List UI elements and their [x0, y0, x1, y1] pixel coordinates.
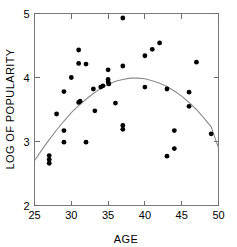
data-point [47, 161, 52, 166]
data-point [187, 104, 192, 109]
x-tick-label: 45 [176, 209, 188, 221]
data-point [106, 67, 111, 72]
data-point [62, 140, 67, 145]
x-tick-label: 50 [212, 209, 224, 221]
data-point [150, 47, 155, 52]
x-tick-label: 40 [139, 209, 151, 221]
data-point [101, 83, 106, 88]
scatter-plot-figure: 2530354045502345 AGE LOG OF POPULARITY [0, 0, 237, 247]
data-point [165, 154, 170, 159]
x-tick-label: 25 [28, 209, 40, 221]
data-point [84, 140, 89, 145]
y-tick-label: 2 [23, 200, 29, 212]
data-point [62, 89, 67, 94]
data-point [84, 62, 89, 67]
data-point [76, 61, 81, 66]
tick-labels: 2530354045502345 [23, 8, 224, 221]
data-point [120, 127, 125, 132]
data-point [62, 128, 67, 133]
data-point [76, 48, 81, 53]
y-tick-label: 5 [23, 8, 29, 20]
data-point [120, 64, 125, 69]
axis-frame [35, 14, 219, 206]
plot-canvas: 2530354045502345 AGE LOG OF POPULARITY [0, 0, 237, 247]
y-axis-title: LOG OF POPULARITY [4, 48, 16, 169]
data-point [120, 16, 125, 21]
data-points [47, 16, 214, 166]
data-point [143, 53, 148, 58]
data-point [78, 99, 83, 104]
data-point [143, 85, 148, 90]
tick-marks [35, 14, 219, 206]
data-point [209, 131, 214, 136]
data-point [172, 128, 177, 133]
x-tick-label: 30 [65, 209, 77, 221]
data-point [172, 146, 177, 151]
data-point [54, 112, 59, 117]
data-point [113, 101, 118, 106]
y-tick-label: 4 [23, 72, 29, 84]
data-point [165, 87, 170, 92]
data-point [91, 87, 96, 92]
data-point [157, 41, 162, 46]
data-point [187, 90, 192, 95]
data-point [69, 75, 74, 80]
data-point [106, 82, 111, 87]
x-axis-title: AGE [114, 233, 138, 245]
y-tick-label: 3 [23, 136, 29, 148]
x-tick-label: 35 [102, 209, 114, 221]
data-point [194, 60, 199, 65]
data-point [92, 108, 97, 113]
